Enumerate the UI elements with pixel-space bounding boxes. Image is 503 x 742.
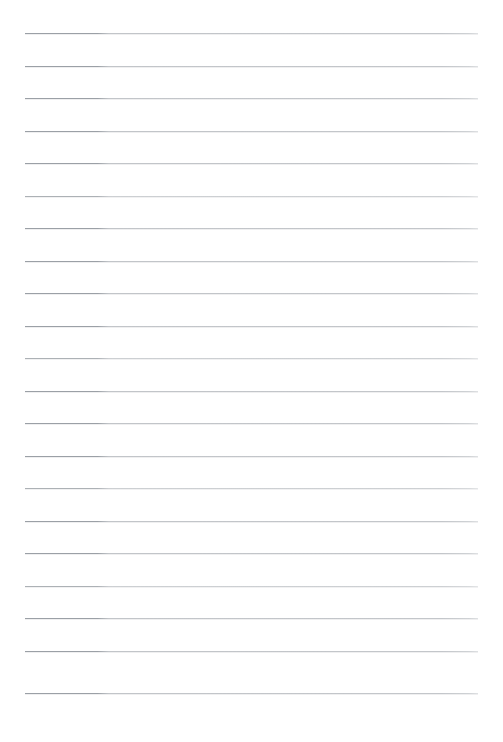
writing-line-8[interactable] xyxy=(25,231,478,263)
writing-line-1[interactable] xyxy=(25,3,478,35)
writing-line-9[interactable] xyxy=(25,263,478,295)
page-margin-bottom xyxy=(0,693,503,742)
writing-line-19[interactable] xyxy=(25,588,478,620)
lined-paper-page xyxy=(0,0,503,742)
writing-line-6[interactable] xyxy=(25,166,478,198)
writing-line-12[interactable] xyxy=(25,361,478,393)
writing-line-14[interactable] xyxy=(25,426,478,458)
writing-line-15[interactable] xyxy=(25,458,478,490)
writing-line-3[interactable] xyxy=(25,68,478,100)
writing-line-2[interactable] xyxy=(25,36,478,68)
writing-line-10[interactable] xyxy=(25,296,478,328)
writing-line-20[interactable] xyxy=(25,621,478,653)
writing-line-5[interactable] xyxy=(25,133,478,165)
writing-line-4[interactable] xyxy=(25,101,478,133)
page-margin-left xyxy=(0,0,25,742)
writing-line-18[interactable] xyxy=(25,556,478,588)
writing-line-21[interactable] xyxy=(25,663,478,695)
writing-line-7[interactable] xyxy=(25,198,478,230)
writing-line-13[interactable] xyxy=(25,393,478,425)
writing-line-11[interactable] xyxy=(25,328,478,360)
page-margin-right xyxy=(478,0,503,742)
writing-line-17[interactable] xyxy=(25,523,478,555)
writing-line-16[interactable] xyxy=(25,491,478,523)
